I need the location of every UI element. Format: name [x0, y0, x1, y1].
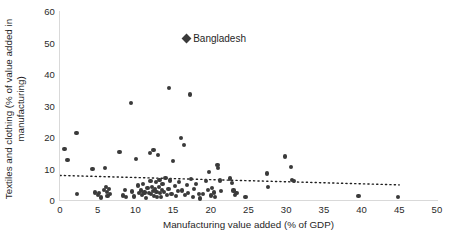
data-point	[103, 166, 107, 170]
data-point	[90, 167, 94, 171]
x-axis-tick-30: 30	[281, 204, 292, 215]
data-point	[160, 182, 164, 186]
data-point	[212, 190, 216, 194]
cropped-caption-sliver	[0, 237, 452, 244]
x-axis-tick-0: 0	[57, 204, 62, 215]
plot-area	[60, 11, 437, 200]
data-point	[168, 178, 172, 182]
data-point	[74, 131, 78, 135]
data-point	[198, 196, 202, 200]
data-point	[159, 195, 163, 199]
data-point	[123, 188, 127, 192]
data-point	[148, 179, 152, 183]
y-axis-tick-60: 60	[44, 6, 55, 17]
x-axis-line	[59, 200, 438, 201]
data-point	[265, 171, 269, 175]
data-point	[171, 159, 175, 163]
data-point	[117, 150, 121, 154]
data-point	[396, 195, 400, 199]
data-point	[192, 187, 196, 191]
data-point	[266, 185, 270, 189]
data-point	[144, 196, 148, 200]
x-axis-tick-35: 35	[319, 204, 330, 215]
x-axis-tick-25: 25	[243, 204, 254, 215]
y-axis-tick-50: 50	[44, 37, 55, 48]
annotation-label: Bangladesh	[193, 33, 246, 44]
data-point	[218, 178, 222, 182]
data-point	[292, 179, 296, 183]
data-point	[230, 181, 234, 185]
data-point	[75, 192, 79, 196]
trend-line	[60, 11, 437, 200]
x-axis-tick-5: 5	[95, 204, 100, 215]
data-point	[167, 86, 171, 90]
data-point	[174, 194, 178, 198]
data-point	[204, 179, 208, 183]
data-point	[130, 189, 134, 193]
data-point	[108, 192, 112, 196]
x-axis-tick-45: 45	[394, 204, 405, 215]
data-point	[177, 180, 181, 184]
y-axis-tick-30: 30	[44, 100, 55, 111]
data-point	[145, 186, 149, 190]
data-point	[191, 195, 195, 199]
data-point	[62, 147, 66, 151]
data-point	[173, 184, 177, 188]
x-axis-title: Manufacturing value added (% of GDP)	[60, 219, 437, 230]
data-point	[99, 195, 103, 199]
data-point	[216, 166, 220, 170]
x-axis-tick-50: 50	[432, 204, 443, 215]
data-point	[136, 183, 140, 187]
data-point	[201, 192, 205, 196]
data-point	[188, 92, 192, 96]
scatter-chart-figure: 0102030405060 Bangladesh Manufacturing v…	[0, 0, 452, 244]
data-point	[141, 182, 145, 186]
data-point	[189, 177, 193, 181]
y-axis-title: Textiles and clothing (% of value added …	[3, 9, 27, 209]
data-point	[207, 170, 211, 174]
data-point	[234, 191, 238, 195]
data-point	[219, 189, 223, 193]
data-point	[182, 143, 186, 147]
y-axis-tick-0: 0	[50, 195, 55, 206]
data-point	[134, 157, 138, 161]
x-axis-tick-10: 10	[130, 204, 141, 215]
data-point	[194, 182, 198, 186]
data-point	[107, 187, 111, 191]
data-point	[124, 195, 128, 199]
data-point	[289, 165, 293, 169]
y-axis-tick-20: 20	[44, 132, 55, 143]
data-point	[356, 194, 360, 198]
data-point	[142, 190, 146, 194]
data-point	[179, 136, 183, 140]
data-point	[186, 191, 190, 195]
data-point	[243, 195, 247, 199]
annotation-bangladesh: Bangladesh	[183, 33, 246, 44]
y-axis-tick-40: 40	[44, 69, 55, 80]
data-point	[156, 153, 160, 157]
y-axis-tick-10: 10	[44, 163, 55, 174]
data-point	[151, 148, 155, 152]
data-point	[166, 187, 170, 191]
data-point	[185, 183, 189, 187]
data-point	[129, 101, 133, 105]
x-axis-tick-15: 15	[168, 204, 179, 215]
data-point	[213, 195, 217, 199]
x-axis-tick-20: 20	[205, 204, 216, 215]
data-point	[65, 158, 69, 162]
data-point	[132, 194, 136, 198]
data-point	[180, 188, 184, 192]
diamond-marker-icon	[182, 34, 192, 44]
x-axis-tick-40: 40	[356, 204, 367, 215]
data-point	[283, 154, 287, 158]
